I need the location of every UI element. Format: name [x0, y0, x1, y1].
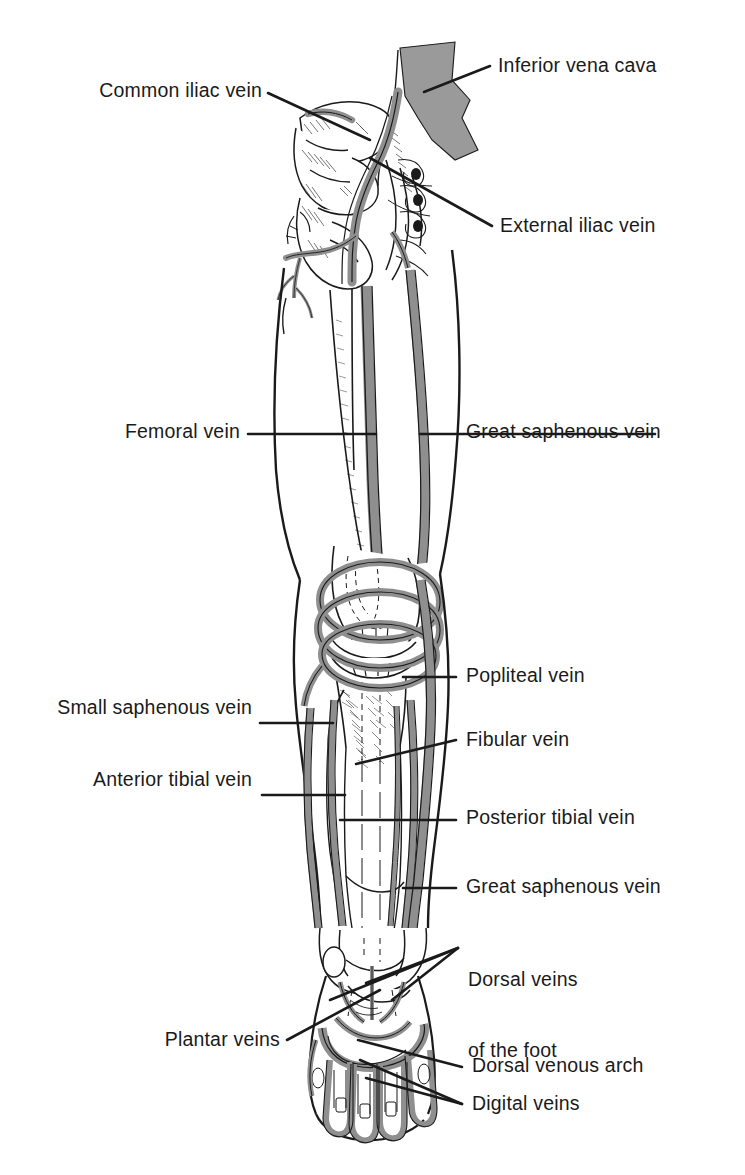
leader-fibular-vein	[356, 740, 456, 764]
deep-leg-vein-hatching	[340, 690, 386, 768]
label-dorsal-veins-of-the-foot-line1: Dorsal veins	[468, 968, 578, 992]
lower-limb-vein-illustration	[0, 0, 745, 1175]
femur-marrow-hatching	[336, 320, 366, 560]
label-plantar-veins: Plantar veins	[80, 1028, 280, 1052]
anatomical-figure-veins-of-lower-limb: Common iliac vein Inferior vena cava Ext…	[0, 0, 745, 1175]
label-digital-veins: Digital veins	[472, 1092, 580, 1116]
label-posterior-tibial-vein: Posterior tibial vein	[466, 806, 635, 830]
great-saphenous-vein-thigh-group	[392, 232, 430, 578]
label-fibular-vein: Fibular vein	[466, 728, 569, 752]
femur-bone	[330, 288, 366, 572]
label-external-iliac-vein: External iliac vein	[500, 214, 656, 238]
label-great-saphenous-vein-thigh: Great saphenous vein	[466, 420, 661, 444]
label-inferior-vena-cava: Inferior vena cava	[498, 54, 657, 78]
pelvis-bone-group	[294, 102, 422, 289]
label-small-saphenous-vein: Small saphenous vein	[30, 696, 252, 720]
tibia-marrow-dashes	[362, 756, 380, 948]
label-femoral-vein: Femoral vein	[60, 420, 240, 444]
label-popliteal-vein: Popliteal vein	[466, 664, 585, 688]
label-dorsal-venous-arch: Dorsal venous arch	[472, 1054, 644, 1078]
label-great-saphenous-vein-leg: Great saphenous vein	[466, 875, 661, 899]
anterior-tibial-vein-group	[328, 700, 346, 926]
label-anterior-tibial-vein: Anterior tibial vein	[40, 768, 252, 792]
label-common-iliac-vein: Common iliac vein	[62, 79, 262, 103]
leader-external-iliac-vein	[370, 158, 492, 226]
label-dorsal-veins-of-the-foot: Dorsal veins of the foot	[468, 920, 578, 1110]
